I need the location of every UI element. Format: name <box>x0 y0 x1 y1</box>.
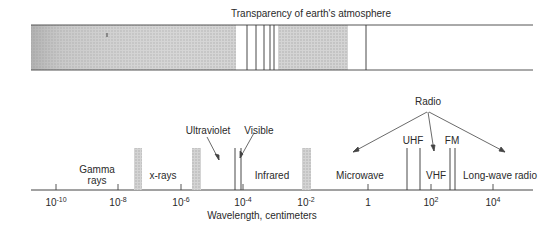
microwave-label: Microwave <box>336 170 384 181</box>
xray-uv-boundary <box>192 148 201 190</box>
tick-label-1e-6: 10-6 <box>172 197 189 208</box>
gamma-xray-boundary <box>134 148 142 190</box>
tick-label-1e-4: 10-4 <box>234 197 251 208</box>
tick-label-1e4: 104 <box>485 197 500 208</box>
tick-label-1e-2: 10-2 <box>297 197 314 208</box>
tick-label-1e-8: 10-8 <box>109 197 126 208</box>
longwave-label: Long-wave radio <box>463 170 537 181</box>
gamma-label-line1: Gamma <box>79 164 115 175</box>
spectrum-diagram <box>0 0 557 225</box>
uhf-label: UHF <box>403 135 424 146</box>
axis-ticks <box>56 184 493 190</box>
diagram-title: Transparency of earth's atmosphere <box>231 8 391 19</box>
tick-label-1e-10: 10-10 <box>45 197 66 208</box>
tick-label-1: 1 <box>365 197 371 208</box>
vhf-label: VHF <box>426 170 446 181</box>
xrays-label: x-rays <box>149 170 176 181</box>
region-boundaries <box>134 148 455 190</box>
opaque-region-infrared <box>278 25 348 70</box>
tick-label-1e2: 102 <box>423 197 438 208</box>
transparency-bar <box>31 25 533 70</box>
arrows <box>207 112 505 160</box>
axis-label: Wavelength, centimeters <box>207 210 317 221</box>
gamma-label-line2: rays <box>88 175 107 186</box>
radio-label: Radio <box>415 96 441 107</box>
visible-label: Visible <box>244 125 273 136</box>
fm-label: FM <box>445 135 459 146</box>
infrared-microwave-boundary <box>302 148 311 190</box>
ultraviolet-label: Ultraviolet <box>186 125 230 136</box>
infrared-label: Infrared <box>255 170 289 181</box>
